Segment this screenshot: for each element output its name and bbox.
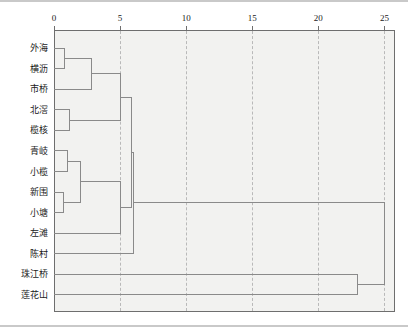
link-path <box>54 151 67 172</box>
link-path <box>120 97 132 207</box>
link-path <box>83 74 120 120</box>
link-path <box>54 274 358 295</box>
link-path <box>54 182 121 233</box>
dendrogram-links <box>0 0 408 327</box>
link-path <box>54 152 133 253</box>
link-path <box>54 59 91 90</box>
dendrogram-figure: 0510152025 外海横沥市桥北滘榄核青岐小榄新围小塘左滩陈村珠江桥莲花山 <box>0 0 408 327</box>
link-path <box>54 192 63 213</box>
link-path <box>63 161 80 202</box>
link-path <box>54 110 70 131</box>
link-path <box>54 48 65 69</box>
link-path <box>133 203 384 285</box>
